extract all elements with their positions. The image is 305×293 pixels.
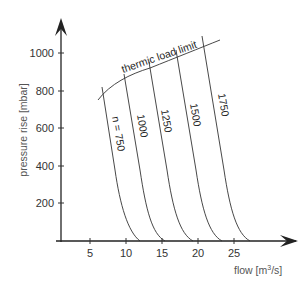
y-axis — [55, 18, 67, 242]
curve-n1000 — [124, 74, 165, 241]
y-tick-400: 400 — [36, 160, 54, 172]
thermic-load-limit-label: thermic load limit — [120, 38, 198, 75]
curve-label-n1250: 1250 — [159, 108, 175, 133]
curve-label-n1500: 1500 — [188, 102, 204, 127]
x-tick-25: 25 — [228, 247, 240, 259]
x-axis-title: flow [m3/s] — [234, 264, 282, 276]
x-axis — [56, 235, 298, 247]
curve-label-n1750: 1750 — [216, 92, 232, 117]
x-tick-5: 5 — [87, 247, 93, 259]
chart-canvas: 1000 800 600 400 200 5 10 15 20 25 press… — [0, 0, 305, 293]
curve-label-n1000: 1000 — [135, 113, 151, 138]
x-tick-20: 20 — [192, 247, 204, 259]
y-tick-800: 800 — [36, 85, 54, 97]
curve-label-n750: n = 750 — [110, 115, 128, 152]
curve-n750 — [102, 87, 140, 241]
curve-n1250 — [149, 62, 193, 241]
y-tick-200: 200 — [36, 197, 54, 209]
x-tick-10: 10 — [120, 247, 132, 259]
y-tick-600: 600 — [36, 122, 54, 134]
curve-n1500 — [176, 50, 222, 241]
x-tick-15: 15 — [156, 247, 168, 259]
curve-n1750 — [202, 36, 250, 241]
y-tick-1000: 1000 — [30, 47, 54, 59]
y-axis-title: pressure rise [mbar] — [17, 83, 29, 176]
